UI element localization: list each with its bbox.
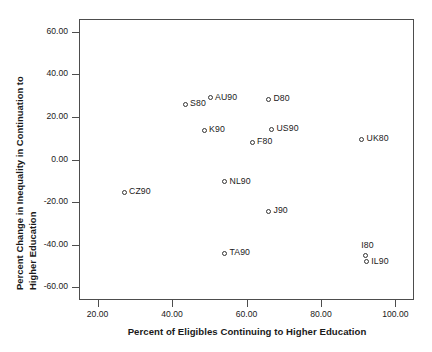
scatter-marker (269, 127, 274, 132)
y-tick-mark (72, 117, 79, 118)
scatter-marker (208, 95, 213, 100)
y-tick-mark (72, 160, 79, 161)
scatter-point-label: CZ90 (129, 186, 151, 196)
scatter-point-label: J90 (273, 205, 287, 215)
scatter-point-label: F80 (257, 136, 272, 146)
y-tick-mark (72, 32, 79, 33)
scatter-marker (266, 209, 271, 214)
y-tick-label: 0.00 (22, 154, 68, 164)
y-tick-label: 20.00 (22, 111, 68, 121)
scatter-point-label: I80 (361, 240, 373, 250)
x-tick-label: 100.00 (365, 309, 425, 319)
y-tick-label: 40.00 (22, 68, 68, 78)
x-tick-mark (98, 300, 99, 307)
x-axis-title: Percent of Eligibles Continuing to Highe… (79, 326, 415, 337)
y-tick-label: -20.00 (22, 196, 68, 206)
scatter-marker (250, 140, 255, 145)
y-tick-label: -40.00 (22, 239, 68, 249)
scatter-point-label: TA90 (230, 247, 251, 257)
x-tick-label: 80.00 (291, 309, 351, 319)
scatter-plot-figure: Percent Change in Inequality in Continua… (0, 0, 432, 352)
y-tick-label: -60.00 (22, 281, 68, 291)
y-tick-label: 60.00 (22, 26, 68, 36)
x-tick-label: 20.00 (68, 309, 128, 319)
scatter-point-label: K90 (209, 124, 225, 134)
scatter-point-label: US90 (276, 123, 298, 133)
y-tick-mark (72, 287, 79, 288)
scatter-marker (222, 251, 227, 256)
scatter-marker (364, 259, 369, 264)
x-tick-label: 60.00 (217, 309, 277, 319)
scatter-point-label: IL90 (371, 256, 388, 266)
x-tick-mark (247, 300, 248, 307)
x-tick-mark (395, 300, 396, 307)
x-tick-mark (172, 300, 173, 307)
scatter-point-label: D80 (273, 93, 289, 103)
scatter-marker (202, 128, 207, 133)
y-tick-mark (72, 74, 79, 75)
scatter-marker (359, 137, 364, 142)
scatter-point-label: AU90 (215, 92, 237, 102)
scatter-point-label: UK80 (367, 133, 389, 143)
scatter-point-label: S80 (190, 98, 206, 108)
scatter-marker (363, 253, 368, 258)
scatter-marker (122, 190, 127, 195)
scatter-marker (266, 97, 271, 102)
scatter-point-label: NL90 (230, 176, 251, 186)
y-axis-title-line-1: Percent Change in Inequality in Continua… (14, 76, 25, 290)
y-tick-mark (72, 245, 79, 246)
y-axis-title-line-2: Higher Education (27, 212, 38, 290)
scatter-marker (183, 102, 188, 107)
x-tick-label: 40.00 (142, 309, 202, 319)
y-tick-mark (72, 202, 79, 203)
x-tick-mark (321, 300, 322, 307)
